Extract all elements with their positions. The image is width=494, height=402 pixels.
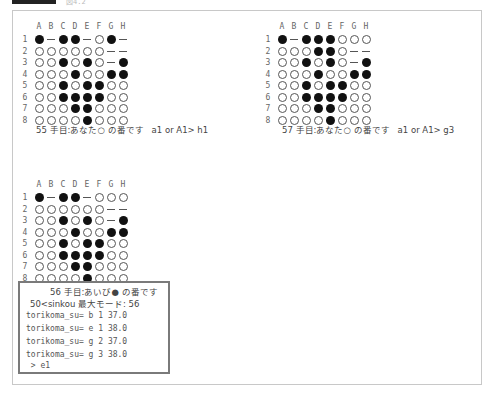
row-label: 7 (264, 103, 272, 114)
board-row: 1 (21, 192, 131, 203)
black-stone-icon (83, 81, 92, 90)
row-label: 7 (21, 103, 29, 114)
black-stone-icon (338, 93, 347, 102)
ai-mode-line: 50<sinkou 最大モード: 56 (30, 297, 139, 309)
white-stone-icon (362, 93, 371, 102)
black-stone-icon (83, 216, 92, 225)
board-cell (81, 57, 93, 68)
board-cell (336, 69, 348, 80)
white-stone-icon (71, 239, 80, 248)
board-cell (300, 57, 312, 68)
black-stone-icon (95, 239, 104, 248)
board-move-56: ABCDEFGH12345678 (21, 180, 151, 280)
board-cell (81, 227, 93, 238)
black-stone-icon (59, 239, 68, 248)
white-stone-icon (95, 104, 104, 113)
white-stone-icon (314, 58, 323, 67)
white-stone-icon (107, 81, 116, 90)
board-cell (57, 215, 69, 226)
board-cell (348, 57, 360, 68)
white-stone-icon (59, 70, 68, 79)
board-cell (312, 34, 324, 45)
black-stone-icon (83, 58, 92, 67)
column-label: E (81, 22, 93, 31)
white-stone-icon (59, 262, 68, 271)
board-cell (276, 80, 288, 91)
white-stone-icon (71, 58, 80, 67)
black-stone-icon (71, 70, 80, 79)
row-label: 4 (264, 69, 272, 80)
white-stone-icon (71, 47, 80, 56)
white-stone-icon (95, 228, 104, 237)
board-row: 5 (21, 80, 131, 91)
empty-dash-icon (362, 51, 370, 52)
board-cell (33, 215, 45, 226)
white-stone-icon (47, 228, 56, 237)
white-stone-icon (35, 251, 44, 260)
row-label: 6 (21, 92, 29, 103)
row-label: 4 (21, 227, 29, 238)
board-cell (45, 261, 57, 272)
black-stone-icon (107, 70, 116, 79)
board-cell (57, 250, 69, 261)
board-cell (288, 46, 300, 57)
figure-caption: 図4.2 (66, 0, 86, 6)
board-cell (117, 215, 129, 226)
black-stone-icon (302, 93, 311, 102)
board-cell (117, 227, 129, 238)
white-stone-icon (35, 239, 44, 248)
board-cell (93, 250, 105, 261)
black-stone-icon (326, 104, 335, 113)
black-stone-icon (362, 58, 371, 67)
board-cell (348, 92, 360, 103)
row-label: 8 (21, 115, 29, 126)
row-label: 5 (264, 80, 272, 91)
board-cell (336, 92, 348, 103)
white-stone-icon (35, 205, 44, 214)
board-cell (300, 34, 312, 45)
board-cell (288, 34, 300, 45)
board-cell (69, 215, 81, 226)
black-stone-icon (95, 251, 104, 260)
black-stone-icon (71, 193, 80, 202)
empty-dash-icon (107, 220, 115, 221)
black-stone-icon (314, 93, 323, 102)
board-cell (288, 92, 300, 103)
board-cell (81, 238, 93, 249)
board-row: 4 (21, 69, 131, 80)
white-stone-icon (290, 93, 299, 102)
board-cell (45, 92, 57, 103)
board-cell (93, 215, 105, 226)
column-label: A (33, 180, 45, 189)
board-cell (288, 103, 300, 114)
board-cell (360, 34, 372, 45)
input-prompt: > e1 (26, 361, 50, 370)
empty-dash-icon (290, 39, 298, 40)
black-stone-icon (314, 47, 323, 56)
black-stone-icon (71, 93, 80, 102)
black-stone-icon (59, 58, 68, 67)
empty-dash-icon (350, 62, 358, 63)
board-cell (336, 80, 348, 91)
ai-output-panel: 56 手目:あいび● の番です 50<sinkou 最大モード: 56 tori… (18, 281, 170, 374)
black-stone-icon (362, 70, 371, 79)
board-cell (117, 80, 129, 91)
board-cell (93, 261, 105, 272)
board-cell (81, 192, 93, 203)
column-label: C (300, 22, 312, 31)
board-cell (69, 204, 81, 215)
board-cell (117, 92, 129, 103)
black-stone-icon (95, 81, 104, 90)
board-cell (105, 57, 117, 68)
white-stone-icon (338, 70, 347, 79)
white-stone-icon (95, 47, 104, 56)
empty-dash-icon (119, 39, 127, 40)
board-cell (57, 34, 69, 45)
board-cell (57, 103, 69, 114)
white-stone-icon (302, 70, 311, 79)
white-stone-icon (47, 47, 56, 56)
black-stone-icon (83, 262, 92, 271)
white-stone-icon (35, 47, 44, 56)
board-cell (81, 204, 93, 215)
empty-dash-icon (83, 197, 91, 198)
